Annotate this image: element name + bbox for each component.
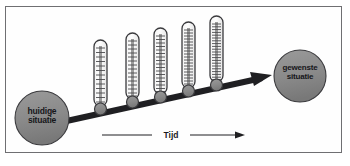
axis-label-tijd: Tijd bbox=[156, 130, 186, 140]
diagram-canvas bbox=[0, 0, 350, 166]
diagram-root: huidige situatie gewenste situatie Tijd bbox=[0, 0, 350, 166]
thermometer-4 bbox=[182, 22, 195, 97]
thermometer-2 bbox=[126, 33, 139, 108]
thermometer-1 bbox=[94, 40, 107, 115]
thermometer-3 bbox=[154, 28, 167, 103]
thermometer-5 bbox=[210, 16, 223, 91]
node-huidige-situatie bbox=[15, 91, 69, 145]
node-gewenste-situatie bbox=[274, 50, 326, 102]
